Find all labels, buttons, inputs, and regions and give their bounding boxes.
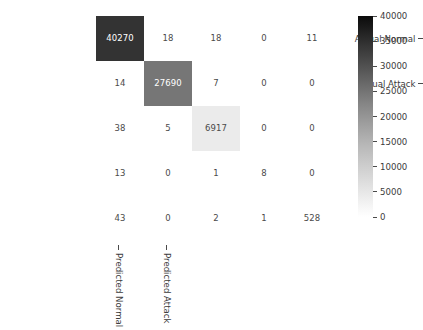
heatmap-cell-value: 8 <box>261 169 267 178</box>
heatmap-cell: 0 <box>240 16 288 61</box>
heatmap-cell: 5 <box>144 106 192 151</box>
heatmap-cell: 1 <box>192 151 240 196</box>
heatmap-cell-value: 0 <box>261 124 267 133</box>
y-axis-tick-mark <box>418 38 423 39</box>
heatmap-cell-value: 38 <box>114 124 125 133</box>
heatmap-cell: 38 <box>96 106 144 151</box>
heatmap-cell: 0 <box>288 61 336 106</box>
heatmap-cell-value: 1 <box>261 214 267 223</box>
heatmap-cell-value: 0 <box>261 79 267 88</box>
heatmap-cell-value: 18 <box>162 34 173 43</box>
colorbar-tick-label: 10000 <box>380 162 407 172</box>
colorbar-tick-mark <box>373 116 377 117</box>
heatmap-cell-value: 0 <box>309 79 315 88</box>
heatmap-cell: 0 <box>240 106 288 151</box>
colorbar-tick-label: 5000 <box>380 187 402 197</box>
heatmap-cell: 11 <box>288 16 336 61</box>
colorbar-tick-label: 0 <box>380 212 385 222</box>
colorbar-tick: 30000 <box>373 61 407 71</box>
heatmap-cell-value: 11 <box>306 34 317 43</box>
heatmap-cell-value: 528 <box>304 214 321 223</box>
colorbar-tick: 15000 <box>373 137 407 147</box>
y-axis-tick-mark <box>418 83 423 84</box>
heatmap-cell: 40270 <box>96 16 144 61</box>
colorbar-tick-label: 25000 <box>380 86 407 96</box>
colorbar-tick-label: 30000 <box>380 61 407 71</box>
confusion-matrix-figure: 4027018180111427690700385691700130180430… <box>0 0 423 330</box>
heatmap-cell: 0 <box>240 61 288 106</box>
heatmap-cell-value: 43 <box>114 214 125 223</box>
heatmap-grid: 4027018180111427690700385691700130180430… <box>96 16 336 241</box>
colorbar-gradient <box>358 16 373 217</box>
heatmap-cell: 2 <box>192 196 240 241</box>
x-axis-tick-label: Predicted Attack <box>162 253 172 324</box>
x-axis-tick-mark <box>119 245 120 250</box>
heatmap-cell: 27690 <box>144 61 192 106</box>
heatmap-cell: 18 <box>144 16 192 61</box>
heatmap-cell-value: 1 <box>213 169 219 178</box>
heatmap-cell: 0 <box>144 151 192 196</box>
heatmap-cell: 528 <box>288 196 336 241</box>
heatmap-cell: 7 <box>192 61 240 106</box>
colorbar-tick-label: 40000 <box>380 11 407 21</box>
heatmap-cell: 14 <box>96 61 144 106</box>
x-axis-tick-predicted-normal: Predicted Normal <box>114 245 124 327</box>
colorbar-tick-mark <box>373 66 377 67</box>
colorbar-tick-mark <box>373 16 377 17</box>
heatmap-cell: 0 <box>144 196 192 241</box>
colorbar-tick-mark <box>373 41 377 42</box>
heatmap-cell-value: 14 <box>114 79 125 88</box>
heatmap-cell-value: 0 <box>165 169 171 178</box>
heatmap-cell: 13 <box>96 151 144 196</box>
heatmap-cell-value: 0 <box>165 214 171 223</box>
heatmap-cell-value: 2 <box>213 214 219 223</box>
heatmap-cell-value: 6917 <box>205 124 227 133</box>
heatmap-cell-value: 0 <box>309 124 315 133</box>
colorbar-tick: 10000 <box>373 162 407 172</box>
colorbar: 4000035000300002500020000150001000050000 <box>358 16 373 217</box>
heatmap-cell-value: 40270 <box>106 34 134 43</box>
heatmap-cell: 18 <box>192 16 240 61</box>
heatmap-cell-value: 0 <box>261 34 267 43</box>
heatmap-cell-value: 7 <box>213 79 219 88</box>
colorbar-tick: 25000 <box>373 86 407 96</box>
heatmap-cell: 0 <box>288 106 336 151</box>
x-axis-tick-predicted-attack: Predicted Attack <box>162 245 172 324</box>
x-axis-tick-mark <box>167 245 168 250</box>
colorbar-tick: 35000 <box>373 36 407 46</box>
heatmap-cell-value: 18 <box>210 34 221 43</box>
colorbar-tick-label: 35000 <box>380 36 407 46</box>
heatmap-cell: 1 <box>240 196 288 241</box>
heatmap-cell: 43 <box>96 196 144 241</box>
colorbar-tick: 0 <box>373 212 385 222</box>
heatmap-cell-value: 27690 <box>154 79 182 88</box>
colorbar-tick-mark <box>373 166 377 167</box>
colorbar-tick-mark <box>373 191 377 192</box>
colorbar-tick-mark <box>373 91 377 92</box>
colorbar-tick-mark <box>373 217 377 218</box>
colorbar-tick: 20000 <box>373 112 407 122</box>
colorbar-tick-mark <box>373 141 377 142</box>
colorbar-tick: 5000 <box>373 187 402 197</box>
heatmap-cell: 0 <box>288 151 336 196</box>
colorbar-tick-label: 20000 <box>380 112 407 122</box>
heatmap-cell: 6917 <box>192 106 240 151</box>
heatmap-cell-value: 5 <box>165 124 171 133</box>
colorbar-tick: 40000 <box>373 11 407 21</box>
heatmap-cell-value: 13 <box>114 169 125 178</box>
x-axis-tick-label: Predicted Normal <box>114 253 124 327</box>
colorbar-tick-label: 15000 <box>380 137 407 147</box>
heatmap-cell: 8 <box>240 151 288 196</box>
heatmap-cell-value: 0 <box>309 169 315 178</box>
